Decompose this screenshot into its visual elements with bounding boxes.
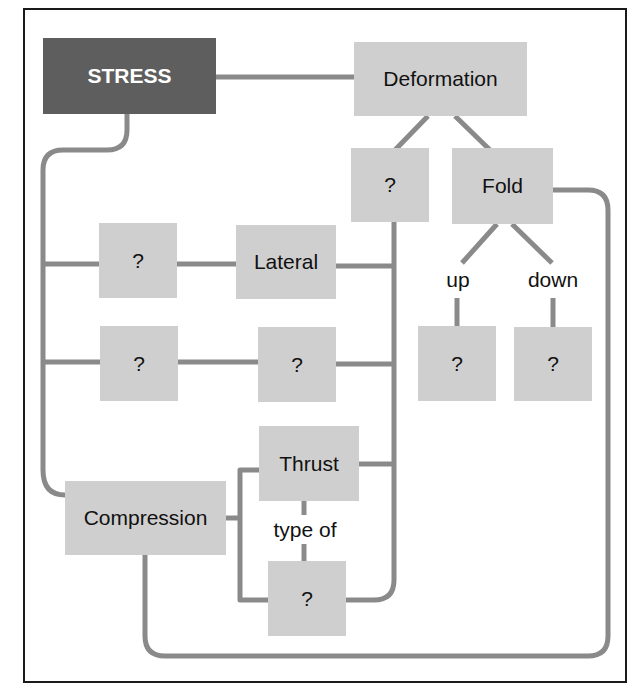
node-thrust-label: Thrust <box>279 452 339 476</box>
edge-label-down: down <box>522 268 584 292</box>
node-lateral-label: Lateral <box>254 250 318 274</box>
node-row2-unknown-a: ? <box>100 326 178 401</box>
edge-label-up: up <box>440 268 476 292</box>
node-thrust-type-unknown-label: ? <box>301 587 313 611</box>
node-fold: Fold <box>452 148 553 224</box>
node-deformation-unknown-label: ? <box>384 173 396 197</box>
node-fold-down-unknown: ? <box>514 327 592 401</box>
edge-label-type-of: type of <box>266 518 344 542</box>
node-deformation-unknown: ? <box>351 148 429 222</box>
node-compression: Compression <box>65 481 226 555</box>
node-row1-unknown: ? <box>99 223 177 298</box>
node-deformation-label: Deformation <box>383 67 497 91</box>
node-compression-label: Compression <box>84 506 208 530</box>
node-fold-down-unknown-label: ? <box>547 352 559 376</box>
node-deformation: Deformation <box>354 42 527 116</box>
node-fold-up-unknown: ? <box>418 326 496 401</box>
node-row2-unknown-b-label: ? <box>291 353 303 377</box>
node-row2-unknown-a-label: ? <box>133 352 145 376</box>
node-row2-unknown-b: ? <box>258 327 336 402</box>
node-thrust-type-unknown: ? <box>268 561 346 636</box>
node-fold-label: Fold <box>482 174 523 198</box>
node-stress: STRESS <box>43 38 216 114</box>
node-stress-label: STRESS <box>87 64 171 88</box>
node-row1-unknown-label: ? <box>132 249 144 273</box>
node-fold-up-unknown-label: ? <box>451 352 463 376</box>
node-lateral: Lateral <box>236 225 336 299</box>
node-thrust: Thrust <box>259 426 359 501</box>
